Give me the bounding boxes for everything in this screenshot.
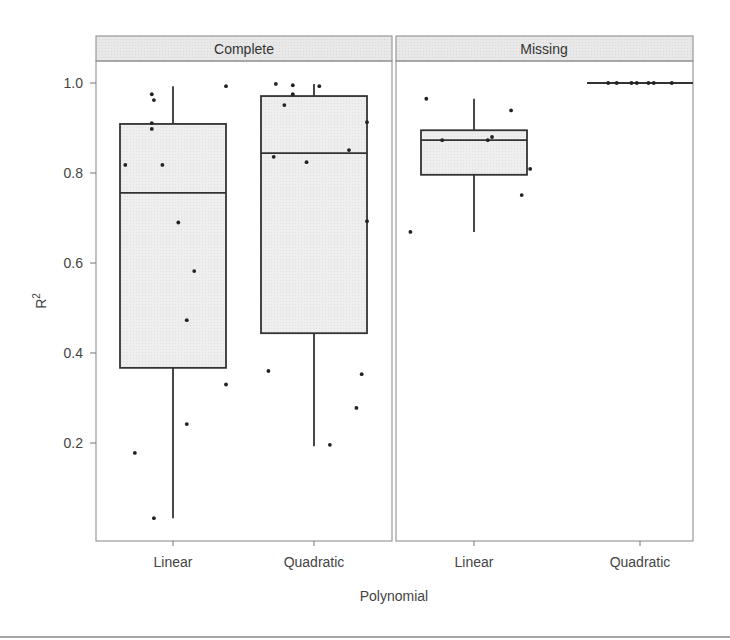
y-axis: 0.20.40.60.81.0 <box>64 75 96 451</box>
boxplot-chart: Complete Missing 0.20.40.60.81.0 R2 Line… <box>0 0 730 640</box>
data-point <box>528 167 532 171</box>
box-linear <box>409 97 533 234</box>
data-point <box>317 84 321 88</box>
box-linear <box>120 84 228 520</box>
data-point <box>224 84 228 88</box>
data-point <box>635 81 639 85</box>
data-point <box>150 121 154 125</box>
data-point <box>267 369 271 373</box>
data-point <box>291 92 295 96</box>
panel-complete: Complete <box>96 36 392 541</box>
panel-missing: Missing <box>396 36 693 541</box>
data-point <box>652 81 656 85</box>
data-point <box>606 81 610 85</box>
data-point <box>440 138 444 142</box>
data-point <box>509 109 513 113</box>
data-point <box>355 406 359 410</box>
data-point <box>328 443 332 447</box>
data-point <box>490 135 494 139</box>
y-tick-label: 1.0 <box>64 75 84 91</box>
data-point <box>152 98 156 102</box>
box-body <box>120 124 226 368</box>
boxes-complete <box>120 82 369 520</box>
data-point <box>123 163 127 167</box>
strip-label-missing: Missing <box>520 41 567 57</box>
data-point <box>670 81 674 85</box>
x-tick-label: Linear <box>455 554 494 570</box>
data-point <box>365 219 369 223</box>
data-point <box>176 221 180 225</box>
data-point <box>647 81 651 85</box>
data-point <box>305 160 309 164</box>
data-point <box>274 82 278 86</box>
x-tick-label: Linear <box>154 554 193 570</box>
data-point <box>282 103 286 107</box>
data-point <box>185 318 189 322</box>
data-point <box>185 422 189 426</box>
boxes-missing <box>409 81 694 234</box>
y-tick-label: 0.4 <box>64 345 84 361</box>
data-point <box>150 92 154 96</box>
data-point <box>150 127 154 131</box>
y-tick-label: 0.2 <box>64 435 84 451</box>
box-body <box>261 96 367 333</box>
data-point <box>360 372 364 376</box>
data-point <box>272 155 276 159</box>
y-tick-label: 0.6 <box>64 255 84 271</box>
data-point <box>630 81 634 85</box>
data-point <box>133 451 137 455</box>
box-body <box>421 130 527 175</box>
x-axis: LinearQuadraticLinearQuadratic <box>154 541 671 570</box>
data-point <box>291 83 295 87</box>
data-point <box>520 193 524 197</box>
data-point <box>192 269 196 273</box>
data-point <box>409 230 413 234</box>
data-point <box>615 81 619 85</box>
box-quadratic <box>587 81 693 85</box>
x-tick-label: Quadratic <box>610 554 671 570</box>
data-point <box>161 163 165 167</box>
data-point <box>152 516 156 520</box>
y-tick-label: 0.8 <box>64 165 84 181</box>
x-axis-label: Polynomial <box>360 588 428 604</box>
data-point <box>224 383 228 387</box>
strip-label-complete: Complete <box>214 41 274 57</box>
y-axis-label: R2 <box>31 293 49 309</box>
data-point <box>424 97 428 101</box>
data-point <box>365 120 369 124</box>
box-quadratic <box>261 82 369 447</box>
data-point <box>486 138 490 142</box>
x-tick-label: Quadratic <box>284 554 345 570</box>
data-point <box>347 148 351 152</box>
